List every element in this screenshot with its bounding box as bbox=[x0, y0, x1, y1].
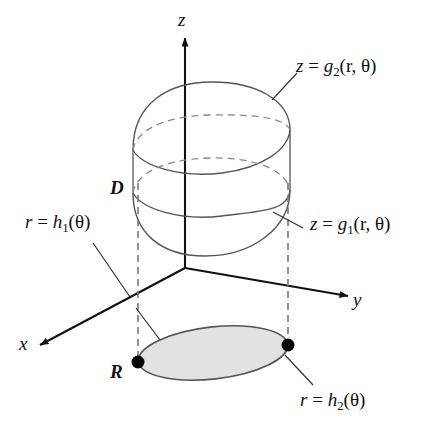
upper-surface-fn: g bbox=[324, 55, 334, 76]
lower-surface-label: z = g1(r, θ) bbox=[310, 214, 390, 237]
outer-radius-eq: = bbox=[312, 389, 323, 410]
leader-outer-radius bbox=[285, 355, 313, 385]
leader-upper-surface bbox=[272, 73, 297, 100]
lower-surface-eq: = bbox=[322, 213, 333, 234]
upper-surface-eq: = bbox=[308, 55, 319, 76]
upper-surface-lhs: z bbox=[296, 55, 303, 76]
axis-label-z: z bbox=[178, 10, 185, 29]
upper-rim-front bbox=[133, 130, 290, 174]
outer-radius-args: (θ) bbox=[344, 389, 366, 410]
inner-radius-eq: = bbox=[37, 211, 48, 232]
x-axis bbox=[40, 268, 185, 345]
outer-radius-fn: h bbox=[328, 389, 338, 410]
lower-surface-lhs: z bbox=[310, 213, 317, 234]
inner-radius-lhs: r bbox=[25, 211, 32, 232]
solid-region-label-d: D bbox=[110, 178, 124, 197]
region-r-ellipse bbox=[136, 319, 291, 388]
leader-region-boundary bbox=[136, 308, 160, 340]
lower-surface-fn: g bbox=[338, 213, 348, 234]
lower-rim-back bbox=[133, 158, 290, 193]
inner-radius-args: (θ) bbox=[69, 211, 91, 232]
solid-region-d bbox=[133, 82, 290, 256]
axis-label-x: x bbox=[19, 334, 27, 353]
y-axis bbox=[185, 268, 348, 296]
upper-rim-back bbox=[133, 115, 290, 150]
leader-inner-radius bbox=[93, 243, 130, 297]
region-right-point bbox=[282, 339, 295, 352]
plane-region-r bbox=[132, 319, 295, 388]
axis-group bbox=[40, 38, 348, 345]
upper-surface-args: (r, θ) bbox=[340, 55, 377, 76]
axis-label-y: y bbox=[353, 290, 361, 309]
lower-surface-g1 bbox=[133, 190, 290, 256]
outer-radius-lhs: r bbox=[300, 389, 307, 410]
plane-region-label-r: R bbox=[110, 362, 123, 381]
polar-solid-diagram: z y x D R z = g2(r, θ) z = g1(r, θ) r = … bbox=[0, 0, 440, 428]
upper-surface-g2 bbox=[133, 82, 290, 150]
inner-radius-fn: h bbox=[53, 211, 63, 232]
upper-surface-label: z = g2(r, θ) bbox=[296, 56, 376, 79]
region-left-point bbox=[132, 356, 145, 369]
outer-radius-label: r = h2(θ) bbox=[300, 390, 365, 413]
lower-surface-args: (r, θ) bbox=[354, 213, 391, 234]
lower-rim-front bbox=[133, 190, 290, 217]
inner-radius-label: r = h1(θ) bbox=[25, 212, 90, 235]
